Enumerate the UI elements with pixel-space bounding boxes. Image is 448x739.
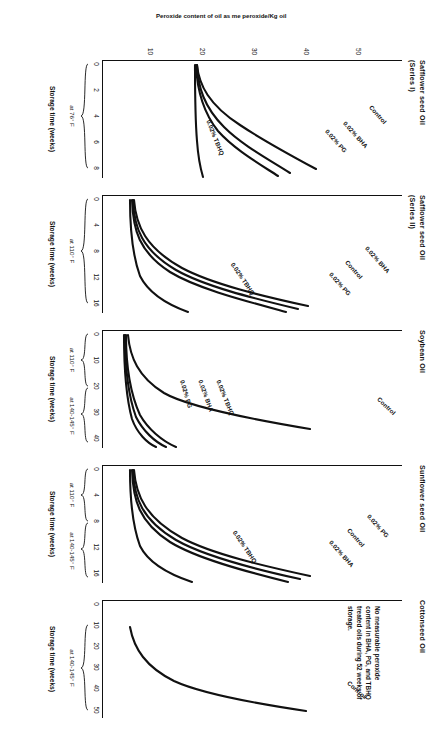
x-tick: 0	[93, 197, 100, 201]
x-tick: 16	[93, 569, 100, 576]
x-axis-label: Storage time (weeks)	[49, 600, 56, 718]
y-tick: 30	[251, 48, 258, 55]
panel-sunflower-seed-oil: Sunflower seed Oil 0.02% PG Control 0.02…	[22, 465, 426, 598]
x-axis-brace	[78, 330, 90, 448]
x-axis-condition: at 140-145° F	[68, 397, 76, 435]
x-axis-label: Storage time (weeks)	[49, 330, 56, 448]
x-tick: 20	[93, 382, 100, 389]
curve-tbhq	[126, 335, 176, 447]
x-axis-condition: at 110° F	[68, 483, 76, 508]
curve-tbhq	[130, 470, 192, 582]
x-tick: 12	[93, 543, 100, 550]
x-axis-brace	[78, 60, 90, 178]
plot-curves	[102, 196, 402, 314]
x-axis-condition: at 110° F	[68, 348, 76, 373]
plot-area	[102, 60, 402, 178]
plot-curves	[102, 61, 402, 179]
panel-title-line1: Safflower seed Oil	[417, 195, 427, 328]
x-axis-condition: at 140-145° F	[68, 532, 76, 570]
x-tick: 40	[93, 434, 100, 441]
curve-control	[130, 627, 306, 711]
x-axis-brace	[78, 600, 90, 718]
x-axis-brace	[78, 195, 90, 313]
panel-title: Soybean Oil	[417, 330, 427, 463]
x-tick: 0	[93, 62, 100, 66]
panel-safflower-series-i: Safflower seed Oil (Series I) Control 0.…	[22, 60, 426, 193]
plot-area	[102, 330, 402, 448]
panel-title: Sunflower seed Oil	[417, 465, 427, 598]
figure-canvas: Safflower seed Oil (Series I) Control 0.…	[0, 0, 448, 739]
panel-title-line2: (Series I)	[407, 60, 417, 193]
x-tick: 2	[93, 88, 100, 92]
panel-title: Safflower seed Oil (Series II)	[407, 195, 426, 328]
y-tick: 10	[147, 48, 154, 55]
plot-curves	[102, 331, 402, 449]
panel-title-line2: (Series II)	[407, 195, 417, 328]
x-tick: 4	[93, 223, 100, 227]
curve-bha	[134, 200, 308, 306]
x-tick: 30	[93, 663, 100, 670]
x-tick: 10	[93, 356, 100, 363]
x-tick: 8	[93, 249, 100, 253]
x-tick: 40	[93, 684, 100, 691]
y-tick: 40	[303, 48, 310, 55]
curve-pg	[134, 470, 310, 576]
curve-tbhq	[130, 200, 188, 312]
x-tick: 4	[93, 493, 100, 497]
panel-title-line1: Sunflower seed Oil	[417, 465, 427, 598]
x-axis-label: Storage time (weeks)	[49, 465, 56, 583]
rotated-figure-wrapper: Safflower seed Oil (Series I) Control 0.…	[0, 0, 448, 739]
y-axis-label: Peroxide content of oil as me peroxide/K…	[156, 12, 286, 19]
x-tick: 0	[93, 467, 100, 471]
x-tick: 20	[93, 642, 100, 649]
x-axis-brace	[78, 465, 90, 583]
x-tick: 8	[93, 519, 100, 523]
x-tick: 12	[93, 273, 100, 280]
panel-title-line1: Cottonseed Oil	[417, 600, 427, 733]
x-tick: 50	[93, 706, 100, 713]
x-axis-condition: at 110° F	[68, 239, 76, 264]
x-tick: 30	[93, 408, 100, 415]
y-tick-labels: 10 20 30 40 50	[102, 18, 402, 58]
panel-title: Safflower seed Oil (Series I)	[407, 60, 426, 193]
panel-title-line1: Safflower seed Oil	[417, 60, 427, 193]
x-tick: 0	[93, 332, 100, 336]
x-tick: 8	[93, 166, 100, 170]
x-axis-condition: at 140-145° F	[68, 649, 76, 687]
panel-safflower-series-ii: Safflower seed Oil (Series II) 0.02% BHA…	[22, 195, 426, 328]
x-axis-label: Storage time (weeks)	[49, 60, 56, 178]
x-axis-label: Storage time (weeks)	[49, 195, 56, 313]
plot-area	[102, 465, 402, 583]
panel-cottonseed-oil: Cottonseed Oil No measurable peroxide co…	[22, 600, 426, 733]
x-tick: 6	[93, 140, 100, 144]
panel-soybean-oil: Soybean Oil Control 0.02% TBHQ 0.02% BHA…	[22, 330, 426, 463]
plot-curves	[102, 466, 402, 584]
x-tick: 16	[93, 299, 100, 306]
x-axis-condition: at 76° F	[68, 105, 76, 127]
x-tick: 4	[93, 114, 100, 118]
x-tick: 10	[93, 621, 100, 628]
panel-title: Cottonseed Oil	[417, 600, 427, 733]
x-tick: 0	[93, 602, 100, 606]
panel-title-line1: Soybean Oil	[417, 330, 427, 463]
y-tick: 50	[355, 48, 362, 55]
y-tick: 20	[199, 48, 206, 55]
